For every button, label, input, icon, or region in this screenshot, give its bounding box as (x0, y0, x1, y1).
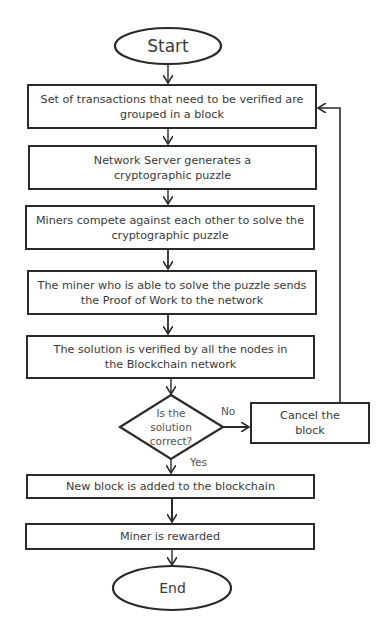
arrow-cancel-loop-back (318, 108, 340, 402)
step-7-text: Miner is rewarded (120, 529, 220, 544)
step-verify-solution: The solution is verified by all the node… (26, 335, 315, 379)
step-3-text: Miners compete against each other to sol… (33, 213, 307, 243)
decision-no-label: No (221, 405, 235, 417)
step-1-text: Set of transactions that need to be veri… (35, 92, 309, 122)
step-add-block: New block is added to the blockchain (26, 474, 315, 499)
step-miner-rewarded: Miner is rewarded (25, 523, 315, 550)
start-terminal: Start (115, 28, 221, 64)
step-5-text: The solution is verified by all the node… (48, 342, 293, 372)
cancel-text: Cancel the block (276, 408, 344, 438)
step-2-text: Network Server generates a cryptographic… (90, 153, 255, 183)
decision-yes-label: Yes (190, 456, 207, 468)
step-generate-puzzle: Network Server generates a cryptographic… (28, 145, 317, 190)
decision-text: Is the solution correct? (140, 406, 202, 448)
decision-node: Is the solution correct? (140, 402, 202, 452)
step-4-text: The miner who is able to solve the puzzl… (35, 278, 309, 308)
start-label: Start (147, 36, 189, 56)
step-group-transactions: Set of transactions that need to be veri… (27, 84, 317, 129)
step-send-proof-of-work: The miner who is able to solve the puzzl… (27, 270, 317, 315)
end-label: End (159, 580, 186, 596)
step-miners-compete: Miners compete against each other to sol… (25, 205, 315, 250)
cancel-block-node: Cancel the block (250, 402, 370, 444)
step-6-text: New block is added to the blockchain (66, 479, 275, 494)
end-terminal: End (113, 566, 232, 610)
